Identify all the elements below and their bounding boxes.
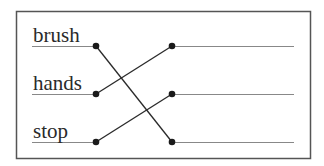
right-dot-3[interactable] <box>169 139 176 146</box>
matching-diagram: brush hands stop <box>0 0 324 166</box>
right-dot-2[interactable] <box>169 91 176 98</box>
left-dot-3[interactable] <box>93 139 100 146</box>
word-stop: stop <box>33 119 68 143</box>
left-dot-2[interactable] <box>93 91 100 98</box>
right-dot-1[interactable] <box>169 43 176 50</box>
word-hands: hands <box>33 71 82 95</box>
word-brush: brush <box>33 23 80 47</box>
left-dot-1[interactable] <box>93 43 100 50</box>
